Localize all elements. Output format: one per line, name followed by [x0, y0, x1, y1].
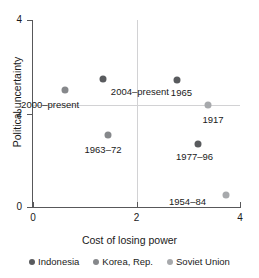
y-tick-label: 4 — [6, 14, 22, 25]
legend-dot-icon — [93, 259, 99, 265]
data-point[interactable] — [62, 86, 69, 93]
data-point[interactable] — [173, 77, 180, 84]
data-point-label: 1965 — [171, 87, 192, 98]
data-point-label: 1917 — [202, 114, 223, 125]
legend-dot-icon — [29, 259, 35, 265]
data-points-layer: 2004–present19651977–962000–present1963–… — [33, 20, 240, 207]
data-point[interactable] — [99, 76, 106, 83]
x-tick-label: 0 — [23, 212, 43, 223]
x-tick-label: 4 — [230, 212, 250, 223]
data-point[interactable] — [195, 140, 202, 147]
legend-dot-icon — [167, 259, 173, 265]
data-point[interactable] — [223, 192, 230, 199]
data-point[interactable] — [205, 101, 212, 108]
legend-item-label: Soviet Union — [176, 256, 230, 267]
scatter-chart-figure: 024024 Political uncertainty Cost of los… — [0, 0, 259, 278]
data-point-label: 1977–96 — [176, 151, 213, 162]
data-point-label: 2000–present — [21, 99, 79, 110]
x-tick-label: 2 — [127, 212, 147, 223]
x-axis-title: Cost of losing power — [0, 234, 259, 246]
x-tick-mark — [240, 202, 241, 208]
data-point-label: 1954–84 — [169, 196, 206, 207]
legend-item-label: Indonesia — [38, 256, 79, 267]
legend-item-label: Korea, Rep. — [102, 256, 153, 267]
y-tick-label: 0 — [6, 201, 22, 212]
chart-legend: IndonesiaKorea, Rep.Soviet Union — [0, 256, 259, 267]
data-point[interactable] — [104, 132, 111, 139]
data-point-label: 1963–72 — [85, 144, 122, 155]
legend-item[interactable]: Korea, Rep. — [93, 256, 153, 267]
legend-item[interactable]: Indonesia — [29, 256, 79, 267]
legend-item[interactable]: Soviet Union — [167, 256, 230, 267]
data-point-label: 2004–present — [111, 86, 169, 97]
